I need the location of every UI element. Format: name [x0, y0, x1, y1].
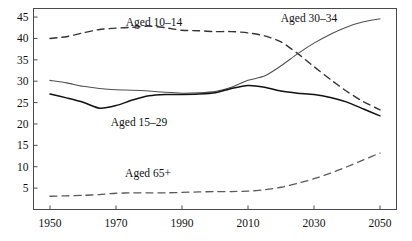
- x-tick-label: 1990: [171, 217, 194, 229]
- y-axis-tick-labels: 51015202530354045: [17, 11, 29, 194]
- series-annotation-aged-30-34: Aged 30–34: [281, 12, 338, 25]
- x-tick-label: 2010: [237, 217, 260, 229]
- y-tick-label: 30: [17, 75, 29, 87]
- y-tick-label: 15: [17, 139, 29, 151]
- y-tick-label: 35: [17, 54, 29, 66]
- x-tick-label: 1950: [39, 217, 62, 229]
- x-tick-label: 2050: [369, 217, 392, 229]
- y-tick-label: 20: [17, 118, 29, 130]
- y-tick-label: 25: [17, 97, 29, 109]
- y-tick-label: 10: [17, 161, 29, 173]
- series-annotation-aged-65: Aged 65+: [125, 167, 171, 180]
- series-annotation-aged-10-14: Aged 10–14: [126, 16, 183, 29]
- y-tick-label: 40: [17, 32, 29, 44]
- x-tick-label: 2030: [303, 217, 326, 229]
- y-tick-label: 5: [23, 182, 29, 194]
- chart-background: [0, 0, 412, 241]
- x-tick-label: 1970: [105, 217, 128, 229]
- series-annotation-aged-15-29: Aged 15–29: [111, 116, 168, 129]
- population-age-share-line-chart: 51015202530354045 1950197019902010203020…: [0, 0, 412, 241]
- chart-canvas: 51015202530354045 1950197019902010203020…: [0, 0, 412, 241]
- y-tick-label: 45: [17, 11, 29, 23]
